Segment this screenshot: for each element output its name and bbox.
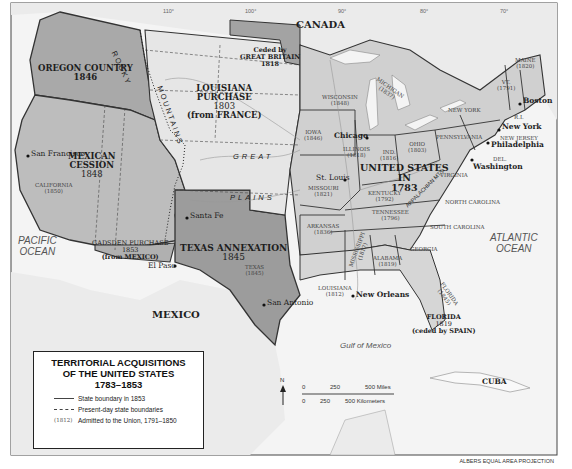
title-line3: 1783–1853 (34, 380, 203, 391)
louisiana-from: (from FRANCE) (187, 111, 262, 120)
state-maine: MAINE(1820) (515, 58, 536, 70)
north-label: N (280, 377, 284, 383)
texas-year: 1845 (180, 253, 287, 262)
state-louisiana: LOUISIANA(1812) (318, 286, 352, 298)
state-south-carolina: SOUTH CAROLINA (430, 225, 485, 231)
pacific-line1: PACIFIC (18, 236, 57, 247)
state-illinois: ILLINOIS(1818) (343, 147, 370, 159)
state-indiana: IND.(1816) (380, 150, 398, 162)
state-iowa: IOWA(1846) (304, 130, 322, 142)
label-gadsden-purchase: GADSDEN PURCHASE 1853 (from MEXICO) (92, 240, 168, 260)
state-vermont: VT.(1791) (497, 80, 515, 92)
label-texas-annexation: TEXAS ANNEXATION 1845 (180, 244, 287, 263)
longitude-70: 70° (500, 9, 508, 15)
state-kentucky: KENTUCKY(1792) (368, 191, 401, 203)
city-st-louis: St. Louis (316, 174, 350, 182)
city-san-antonio: San Antonio (267, 299, 313, 307)
legend-admitted-year: (1812) Admitted to the Union, 1791–1850 (54, 417, 203, 424)
city-chicago: Chicago (334, 132, 368, 140)
state-pennsylvania: PENNSYLVANIA (436, 135, 482, 141)
state-alabama: ALABAMA(1819) (373, 256, 402, 268)
longitude-90: 90° (338, 9, 346, 15)
legend-state-boundary-1853: State boundary in 1853 (54, 395, 203, 402)
label-cuba: CUBA (482, 378, 507, 386)
longitude-110: 110° (163, 9, 174, 15)
map-legend: TERRITORIAL ACQUISITIONS OF THE UNITED S… (33, 351, 204, 449)
label-mexico: MEXICO (152, 310, 200, 321)
projection-label: ALBERS EQUAL AREA PROJECTION (459, 458, 554, 464)
state-new-york: NEW YORK (448, 108, 481, 114)
city-san-francisco: San Francisco (31, 150, 85, 158)
label-great: GREAT (233, 153, 273, 161)
label-gulf-of-mexico: Gulf of Mexico (340, 342, 391, 350)
dashed-line-icon (54, 409, 74, 410)
state-missouri: MISSOURI(1821) (308, 186, 339, 198)
florida-ceded: (ceded by SPAIN) (412, 328, 475, 335)
label-ceded-great-britain: Ceded by GREAT BRITAIN 1818 (240, 47, 300, 67)
legend-present-day-boundaries: Present-day state boundaries (54, 406, 203, 413)
city-el-paso: El Paso (148, 262, 176, 270)
state-arkansas: ARKANSAS(1836) (307, 224, 339, 236)
atlantic-line2: OCEAN (490, 244, 538, 255)
state-ohio: OHIO(1803) (408, 142, 426, 154)
label-florida-1819: FLORIDA 1819 (ceded by SPAIN) (412, 314, 475, 334)
state-california: CALIFORNIA(1850) (35, 183, 72, 195)
cession-year: 1848 (68, 170, 116, 179)
city-santa-fe: Santa Fe (190, 212, 224, 220)
britain-year: 1818 (240, 61, 300, 68)
atlantic-line1: ATLANTIC (490, 233, 538, 244)
city-philadelphia: Philadelphia (491, 141, 544, 149)
label-canada: CANADA (296, 20, 345, 31)
state-rhode-island: R.I. (514, 115, 524, 121)
longitude-100: 100° (245, 9, 256, 15)
label-pacific-ocean: PACIFIC OCEAN (18, 236, 57, 257)
city-new-orleans: New Orleans (356, 291, 409, 299)
state-north-carolina: NORTH CAROLINA (445, 200, 500, 206)
year-sample: (1812) (54, 417, 74, 423)
city-washington: Washington (473, 163, 523, 171)
label-louisiana-purchase: LOUISIANA PURCHASE 1803 (from FRANCE) (187, 84, 262, 120)
state-texas: TEXAS(1845) (245, 265, 264, 277)
gadsden-from: (from MEXICO) (92, 254, 168, 261)
state-georgia: GEORGIA (410, 247, 438, 253)
state-wisconsin: WISCONSIN(1848) (322, 95, 358, 107)
legend-title: TERRITORIAL ACQUISITIONS OF THE UNITED S… (34, 358, 203, 391)
label-atlantic-ocean: ATLANTIC OCEAN (490, 233, 538, 254)
city-boston: Boston (523, 97, 552, 105)
city-new-york: New York (502, 123, 542, 131)
solid-line-icon (54, 398, 74, 399)
label-plains: PLAINS (230, 194, 275, 202)
longitude-80: 80° (420, 9, 428, 15)
state-tennessee: TENNESSEE(1796) (372, 210, 409, 222)
state-virginia: VIRGINIA (440, 173, 468, 179)
pacific-line2: OCEAN (18, 247, 57, 258)
